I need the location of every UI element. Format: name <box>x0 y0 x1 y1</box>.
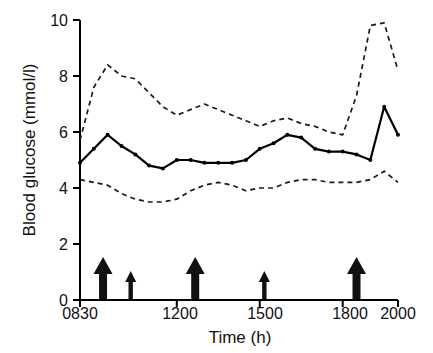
snack-arrow-afternoon <box>259 271 270 299</box>
meal-arrow-breakfast <box>94 257 113 299</box>
meal-arrow-lunch <box>186 257 205 299</box>
meal-arrow-dinner <box>347 257 366 299</box>
series-lower-dashed <box>80 171 398 202</box>
plot-area <box>0 0 433 353</box>
chart-figure: Blood glucose (mmol/l) Time (h) 10 8 6 4… <box>0 0 433 353</box>
meal-arrow-group <box>94 257 366 299</box>
x-tick-marks <box>80 300 398 307</box>
y-tick-marks <box>73 20 80 300</box>
snack-arrow-morning <box>125 271 136 299</box>
series-upper-dashed <box>80 23 398 141</box>
series-median-solid <box>78 105 400 171</box>
